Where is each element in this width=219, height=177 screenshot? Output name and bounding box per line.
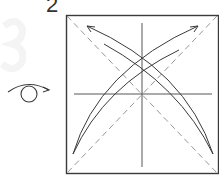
fold-diagram (0, 0, 219, 177)
